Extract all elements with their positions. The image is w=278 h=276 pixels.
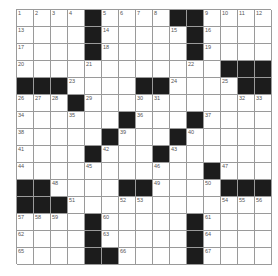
grid-cell[interactable]	[119, 146, 136, 163]
grid-cell[interactable]	[68, 44, 85, 61]
grid-cell[interactable]: 20	[17, 61, 34, 78]
grid-cell[interactable]: 3	[51, 10, 68, 27]
grid-cell[interactable]: 55	[238, 197, 255, 214]
grid-cell[interactable]: 67	[204, 248, 221, 265]
grid-cell[interactable]	[136, 27, 153, 44]
grid-cell[interactable]	[34, 248, 51, 265]
grid-cell[interactable]	[255, 129, 272, 146]
grid-cell[interactable]	[204, 61, 221, 78]
grid-cell[interactable]: 41	[17, 146, 34, 163]
grid-cell[interactable]	[170, 95, 187, 112]
grid-cell[interactable]	[238, 231, 255, 248]
grid-cell[interactable]	[136, 231, 153, 248]
grid-cell[interactable]: 23	[68, 78, 85, 95]
grid-cell[interactable]	[153, 44, 170, 61]
grid-cell[interactable]	[170, 197, 187, 214]
grid-cell[interactable]: 7	[136, 10, 153, 27]
grid-cell[interactable]	[221, 112, 238, 129]
grid-cell[interactable]: 22	[187, 61, 204, 78]
grid-cell[interactable]	[136, 61, 153, 78]
grid-cell[interactable]: 60	[102, 214, 119, 231]
grid-cell[interactable]	[68, 129, 85, 146]
grid-cell[interactable]	[238, 248, 255, 265]
grid-cell[interactable]	[51, 231, 68, 248]
grid-cell[interactable]	[51, 129, 68, 146]
grid-cell[interactable]	[187, 146, 204, 163]
grid-cell[interactable]: 39	[119, 129, 136, 146]
grid-cell[interactable]	[85, 180, 102, 197]
grid-cell[interactable]: 1	[17, 10, 34, 27]
grid-cell[interactable]	[255, 146, 272, 163]
grid-cell[interactable]	[119, 78, 136, 95]
grid-cell[interactable]	[51, 112, 68, 129]
grid-cell[interactable]: 46	[153, 163, 170, 180]
grid-cell[interactable]	[221, 248, 238, 265]
grid-cell[interactable]	[119, 61, 136, 78]
grid-cell[interactable]	[68, 214, 85, 231]
grid-cell[interactable]: 66	[119, 248, 136, 265]
grid-cell[interactable]	[119, 44, 136, 61]
grid-cell[interactable]: 15	[170, 27, 187, 44]
grid-cell[interactable]	[187, 78, 204, 95]
grid-cell[interactable]	[255, 163, 272, 180]
grid-cell[interactable]	[204, 78, 221, 95]
grid-cell[interactable]: 59	[51, 214, 68, 231]
grid-cell[interactable]	[153, 231, 170, 248]
grid-cell[interactable]	[68, 248, 85, 265]
grid-cell[interactable]	[119, 231, 136, 248]
grid-cell[interactable]	[136, 248, 153, 265]
grid-cell[interactable]	[153, 27, 170, 44]
grid-cell[interactable]	[221, 27, 238, 44]
grid-cell[interactable]	[238, 146, 255, 163]
grid-cell[interactable]	[34, 163, 51, 180]
grid-cell[interactable]: 25	[221, 78, 238, 95]
grid-cell[interactable]	[187, 163, 204, 180]
grid-cell[interactable]	[170, 231, 187, 248]
grid-cell[interactable]	[136, 163, 153, 180]
grid-cell[interactable]	[204, 95, 221, 112]
grid-cell[interactable]	[187, 180, 204, 197]
grid-cell[interactable]: 18	[102, 44, 119, 61]
grid-cell[interactable]: 52	[119, 197, 136, 214]
grid-cell[interactable]	[51, 44, 68, 61]
grid-cell[interactable]	[102, 197, 119, 214]
grid-cell[interactable]: 65	[17, 248, 34, 265]
grid-cell[interactable]	[51, 248, 68, 265]
grid-cell[interactable]: 17	[17, 44, 34, 61]
grid-cell[interactable]: 35	[68, 112, 85, 129]
grid-cell[interactable]	[153, 214, 170, 231]
grid-cell[interactable]	[221, 95, 238, 112]
grid-cell[interactable]	[102, 180, 119, 197]
grid-cell[interactable]: 37	[204, 112, 221, 129]
grid-cell[interactable]	[170, 61, 187, 78]
grid-cell[interactable]	[34, 129, 51, 146]
grid-cell[interactable]	[153, 61, 170, 78]
grid-cell[interactable]	[68, 231, 85, 248]
grid-cell[interactable]	[68, 163, 85, 180]
grid-cell[interactable]	[85, 197, 102, 214]
grid-cell[interactable]: 61	[204, 214, 221, 231]
grid-cell[interactable]: 48	[51, 180, 68, 197]
grid-cell[interactable]	[170, 163, 187, 180]
grid-cell[interactable]	[255, 214, 272, 231]
grid-cell[interactable]	[238, 112, 255, 129]
grid-cell[interactable]: 2	[34, 10, 51, 27]
grid-cell[interactable]	[221, 129, 238, 146]
grid-cell[interactable]: 21	[85, 61, 102, 78]
grid-cell[interactable]	[238, 214, 255, 231]
grid-cell[interactable]: 28	[51, 95, 68, 112]
grid-cell[interactable]	[238, 163, 255, 180]
grid-cell[interactable]: 43	[170, 146, 187, 163]
grid-cell[interactable]	[255, 44, 272, 61]
grid-cell[interactable]: 16	[204, 27, 221, 44]
grid-cell[interactable]	[238, 129, 255, 146]
grid-cell[interactable]	[119, 214, 136, 231]
grid-cell[interactable]: 56	[255, 197, 272, 214]
grid-cell[interactable]	[34, 231, 51, 248]
grid-cell[interactable]: 64	[204, 231, 221, 248]
grid-cell[interactable]	[102, 61, 119, 78]
grid-cell[interactable]: 58	[34, 214, 51, 231]
grid-cell[interactable]	[68, 180, 85, 197]
grid-cell[interactable]: 50	[204, 180, 221, 197]
grid-cell[interactable]	[119, 95, 136, 112]
